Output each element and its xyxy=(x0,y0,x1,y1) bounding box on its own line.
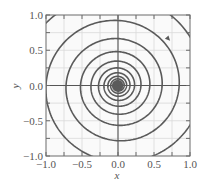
y-tick-label: 0.0 xyxy=(29,80,43,92)
y-tick-label: −1.0 xyxy=(23,150,43,162)
y-axis-label: y xyxy=(9,83,21,89)
y-tick-labels: −1.0−0.50.00.51.0 xyxy=(23,9,43,162)
y-tick-label: 1.0 xyxy=(29,9,43,21)
x-tick-label: 1.0 xyxy=(183,158,197,170)
x-tick-label: −0.5 xyxy=(72,158,92,170)
y-tick-label: −0.5 xyxy=(23,115,43,127)
x-axis-label: x xyxy=(114,169,120,181)
spiral-phase-plot: −1.0−0.50.00.51.0 −1.0−0.50.00.51.0 x y xyxy=(0,0,207,185)
x-tick-label: 0.5 xyxy=(147,158,161,170)
y-tick-label: 0.5 xyxy=(29,44,43,56)
